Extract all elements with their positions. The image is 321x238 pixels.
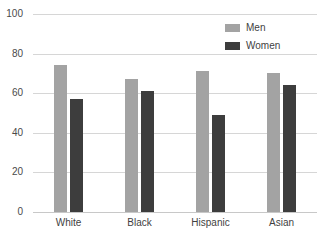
gridline-0 — [33, 212, 317, 213]
bar-group: White — [33, 14, 104, 212]
legend-item-women: Women — [225, 38, 280, 53]
bar-white-women — [70, 99, 83, 212]
bar-asian-men — [267, 73, 280, 212]
legend-swatch-icon — [225, 42, 240, 50]
y-axis-tick-label: 60 — [0, 88, 23, 98]
bar-black-women — [141, 91, 154, 212]
legend-item-men: Men — [225, 20, 280, 35]
legend-item-label: Women — [246, 40, 280, 51]
y-axis-tick-label: 100 — [0, 9, 23, 19]
y-axis-tick-label: 80 — [0, 49, 23, 59]
legend-item-label: Men — [246, 22, 265, 33]
x-axis-tick-label: Asian — [246, 217, 317, 228]
bar-pair — [104, 14, 175, 212]
legend-swatch-icon — [225, 24, 240, 32]
y-axis-tick-label: 0 — [0, 207, 23, 217]
bar-hispanic-men — [196, 71, 209, 212]
x-axis-tick-label: Black — [104, 217, 175, 228]
x-axis-tick-label: White — [33, 217, 104, 228]
x-axis-tick-label: Hispanic — [175, 217, 246, 228]
bar-chart: 100 80 60 40 20 0 WhiteBlackHispanicAsia… — [0, 0, 321, 238]
bar-asian-women — [283, 85, 296, 212]
bar-pair — [33, 14, 104, 212]
bar-white-men — [54, 65, 67, 212]
bar-group: Black — [104, 14, 175, 212]
y-axis-tick-label: 20 — [0, 167, 23, 177]
y-axis-tick-label: 40 — [0, 128, 23, 138]
bar-hispanic-women — [212, 115, 225, 212]
chart-legend: Men Women — [225, 20, 280, 56]
bar-black-men — [125, 79, 138, 212]
